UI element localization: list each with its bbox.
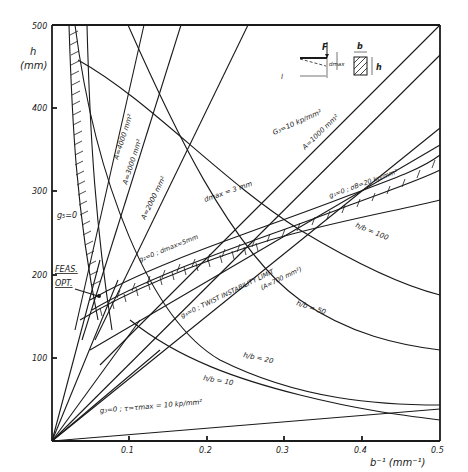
inset-F: F [322, 43, 328, 52]
label-hb10: h/b = 10 [203, 374, 235, 387]
label-g4: g₄=0 ; TWIST INSTABILITY LIMIT [179, 267, 276, 320]
inset-h: h [376, 63, 382, 72]
label-hb100: h/b = 100 [354, 221, 390, 242]
inset-l: l [281, 73, 283, 81]
x-axis-label: b⁻¹ (mm⁻¹) [370, 457, 425, 468]
optimum-point [97, 294, 101, 298]
label-g1: g₁=0 ; σB=20 kp/mm² [328, 167, 399, 199]
x-tick-0.2: 0.2 [199, 446, 212, 455]
label-g3-tau: g₃=0 ; τ=τmax = 10 kp/mm² [99, 398, 202, 415]
x-tick-0.3: 0.3 [276, 446, 289, 455]
x-tick-0.1: 0.1 [121, 446, 134, 455]
x-tick-0.5: 0.5 [431, 446, 444, 455]
label-hb50: h/b = 50 [295, 299, 327, 316]
area-lines [75, 25, 440, 365]
label-hb20: h/b = 20 [243, 351, 275, 365]
y-tick-100: 100 [32, 354, 47, 363]
inset-diagram: F l dmax b h [281, 42, 382, 81]
y-tick-400: 400 [32, 104, 47, 113]
y-tick-200: 200 [32, 271, 47, 280]
y-axis-label-unit: (mm) [20, 60, 47, 71]
opt-label: OPT. [55, 279, 73, 288]
label-g2: g₂=0 ; dmax=5mm [138, 233, 200, 264]
feas-label: FEAS. [55, 265, 78, 274]
g4-line [90, 145, 440, 350]
y-axis-label-h: h [30, 46, 36, 57]
y-tick-500: 500 [32, 22, 47, 31]
design-chart: 500 h (mm) 400 300 200 100 0.1 0.2 0.3 0… [0, 0, 468, 472]
g5-label: g₅=0 [57, 211, 77, 220]
inset-dmax: dmax [329, 61, 345, 67]
inset-b: b [357, 42, 363, 51]
y-tick-300: 300 [32, 187, 47, 196]
x-tick-0.4: 0.4 [354, 446, 367, 455]
